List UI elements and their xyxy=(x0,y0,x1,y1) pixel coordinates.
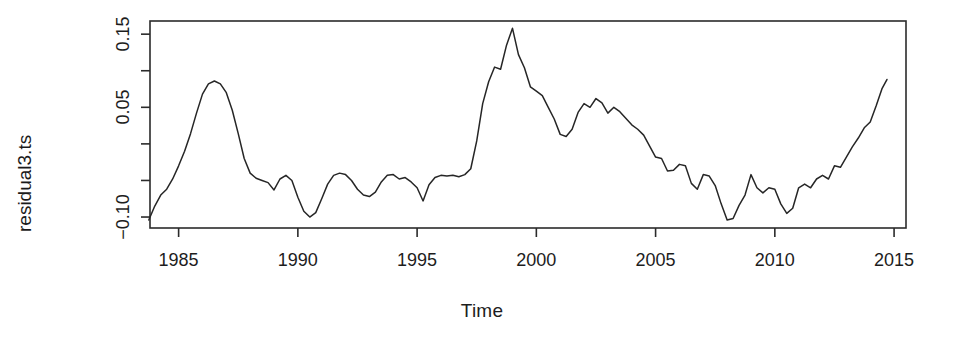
x-axis-tickmarks xyxy=(179,228,894,237)
plot-frame xyxy=(150,21,906,228)
y-tick-label: −0.10 xyxy=(113,194,134,240)
x-tick-label: 1985 xyxy=(159,250,199,271)
plot-canvas xyxy=(0,0,964,353)
x-tick-label: 1990 xyxy=(278,250,318,271)
x-tick-label: 2010 xyxy=(755,250,795,271)
y-axis-tickmarks xyxy=(141,34,150,217)
residual-time-series-plot: residual3.ts Time 1985199019952000200520… xyxy=(0,0,964,353)
y-tick-label: 0.05 xyxy=(113,90,134,125)
x-tick-label: 2015 xyxy=(874,250,914,271)
y-tick-label: 0.15 xyxy=(113,17,134,52)
series-line-residual3 xyxy=(149,28,887,220)
x-tick-label: 2000 xyxy=(516,250,556,271)
x-tick-label: 2005 xyxy=(636,250,676,271)
x-tick-label: 1995 xyxy=(397,250,437,271)
